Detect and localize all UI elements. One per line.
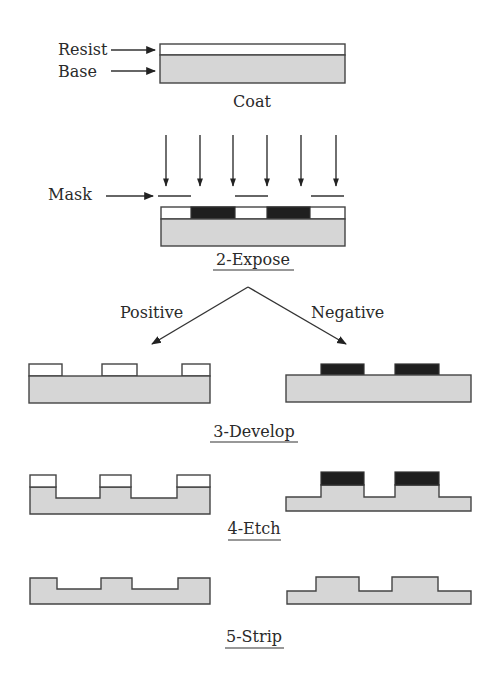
etch-positive-base — [30, 487, 210, 514]
step-caption-expose: 2-Expose — [216, 250, 290, 269]
resist-block — [395, 364, 439, 375]
expose-step: Mask 2-Expose — [48, 135, 345, 270]
base-label: Base — [58, 62, 97, 81]
develop-step: 3-Develop — [29, 364, 471, 442]
resist-block — [182, 364, 210, 376]
resist-block — [102, 364, 137, 376]
resist-block — [177, 475, 210, 487]
step-caption-etch: 4-Etch — [228, 519, 281, 538]
resist-block — [321, 364, 364, 375]
light-arrows — [166, 135, 336, 186]
step-caption-strip: 5-Strip — [226, 627, 282, 646]
coat-step: Resist Base Coat — [58, 40, 345, 111]
etch-negative-base — [286, 485, 471, 511]
resist-block — [29, 364, 62, 376]
strip-negative-base — [287, 577, 471, 604]
expose-resist-layer — [161, 207, 345, 219]
develop-negative-base — [286, 375, 471, 402]
develop-negative — [286, 364, 471, 402]
photolithography-diagram: Resist Base Coat Mask 2-Expose — [0, 0, 496, 685]
strip-positive-base — [30, 578, 210, 604]
develop-positive — [29, 364, 210, 403]
coat-resist-layer — [160, 44, 345, 55]
exposed-resist-region — [191, 207, 235, 219]
expose-base-layer — [161, 219, 345, 246]
negative-label: Negative — [311, 303, 384, 322]
exposed-resist-region — [267, 207, 310, 219]
positive-label: Positive — [120, 303, 183, 322]
resist-block — [395, 472, 439, 485]
coat-base-layer — [160, 55, 345, 83]
resist-block — [321, 472, 364, 485]
resist-block — [100, 475, 131, 487]
resist-label: Resist — [58, 40, 108, 59]
branch: Positive Negative — [120, 287, 384, 344]
etch-step: 4-Etch — [30, 472, 471, 540]
strip-step: 5-Strip — [30, 577, 471, 648]
etch-negative — [286, 472, 471, 511]
resist-block — [30, 475, 56, 487]
step-caption-develop: 3-Develop — [213, 422, 294, 441]
step-caption-coat: Coat — [233, 92, 271, 111]
mask-label: Mask — [48, 185, 92, 204]
develop-positive-base — [29, 376, 210, 403]
etch-positive — [30, 475, 210, 514]
